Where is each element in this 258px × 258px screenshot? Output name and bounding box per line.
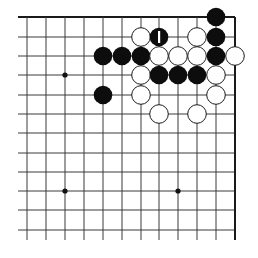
black-stone-icon [132,47,151,66]
white-stone [169,47,188,66]
white-stone [132,86,151,105]
white-stone-icon [150,47,169,66]
stones [94,8,245,124]
black-stone [207,28,226,47]
white-stone [188,28,207,47]
black-stone [169,66,188,85]
black-stone-icon [169,66,188,85]
white-stone-icon [132,86,151,105]
move-number-label [158,31,160,43]
black-stone [132,47,151,66]
black-stone-icon [150,66,169,85]
black-stone [188,66,207,85]
white-stone [207,66,226,85]
black-stone-icon [94,47,113,66]
white-stone-icon [132,28,151,47]
black-stone-icon [188,66,207,85]
black-stone [207,8,226,27]
black-stone [150,66,169,85]
white-stone-icon [188,105,207,124]
go-board-diagram [0,0,258,258]
white-stone [188,105,207,124]
white-stone [188,47,207,66]
black-stone-icon [207,28,226,47]
go-board [0,0,258,258]
white-stone-icon [188,47,207,66]
white-stone [226,47,245,66]
white-stone-icon [207,86,226,105]
white-stone [132,28,151,47]
white-stone [150,105,169,124]
black-stone [113,47,132,66]
star-point-icon [175,188,180,193]
black-stone [94,86,113,105]
black-stone [150,28,169,47]
white-stone-icon [226,47,245,66]
black-stone-icon [113,47,132,66]
white-stone [207,86,226,105]
white-stone-icon [188,28,207,47]
white-stone-icon [150,105,169,124]
white-stone-icon [207,66,226,85]
black-stone-icon [207,47,226,66]
star-point-icon [62,188,67,193]
white-stone [132,66,151,85]
white-stone-icon [169,47,188,66]
black-stone [94,47,113,66]
black-stone-icon [207,8,226,27]
star-point-icon [62,72,67,77]
black-stone [207,47,226,66]
black-stone-icon [94,86,113,105]
white-stone-icon [132,66,151,85]
white-stone [150,47,169,66]
